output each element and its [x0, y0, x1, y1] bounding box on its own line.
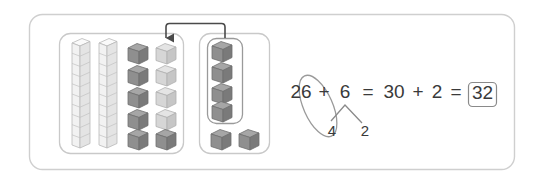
ten-rod-2 — [99, 39, 117, 149]
equation-addend-2: 6 — [340, 81, 351, 102]
unit-cube-dark — [128, 88, 148, 109]
equation-equals-1: = — [362, 81, 373, 102]
unit-cube-light — [156, 44, 176, 65]
unit-cube-dark — [128, 110, 148, 131]
equation-plus-2: + — [412, 81, 423, 102]
math-illustration: 26 + 6 = 30 + 2 = 32 4 2 — [0, 0, 539, 184]
equation-plus-1: + — [318, 81, 329, 102]
unit-cube-dark — [128, 44, 148, 65]
worksheet-canvas: 26 + 6 = 30 + 2 = 32 4 2 — [0, 0, 539, 184]
equation-remainder: 2 — [432, 81, 443, 102]
unit-cube-dark — [212, 42, 232, 63]
unit-cube-light — [156, 66, 176, 87]
decomposition-right-part: 2 — [361, 122, 369, 139]
unit-cube-dark — [239, 130, 259, 151]
unit-cube-dark — [212, 63, 232, 84]
unit-cube-dark — [212, 102, 232, 123]
unit-cube-light — [156, 110, 176, 131]
equation-sum-tens: 30 — [383, 81, 404, 102]
unit-cube-light — [156, 88, 176, 109]
equation-equals-2: = — [450, 81, 461, 102]
ten-rod-1 — [72, 39, 90, 149]
unit-cube-dark — [128, 66, 148, 87]
unit-cube-dark — [211, 130, 231, 151]
equation-addend-1: 26 — [290, 81, 311, 102]
unit-cube-dark — [156, 130, 176, 151]
equation-answer: 32 — [472, 82, 493, 103]
unit-cube-dark — [212, 84, 232, 105]
unit-cube-dark — [128, 130, 148, 151]
decomposition-left-part: 4 — [328, 122, 336, 139]
